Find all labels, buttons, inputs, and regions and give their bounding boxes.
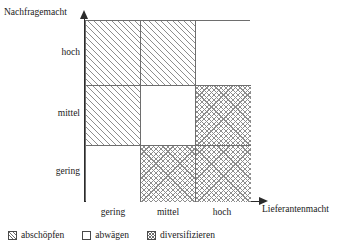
y-tick-label-gering: gering bbox=[30, 166, 80, 176]
matrix-cell-gering-hoch[interactable] bbox=[196, 146, 251, 202]
legend-swatch-cross-icon bbox=[147, 231, 156, 240]
x-axis-title: Lieferantenmacht bbox=[262, 204, 329, 214]
matrix-cell-mittel-gering[interactable] bbox=[86, 86, 141, 146]
chart-canvas: Nachfragemacht Lieferantenmacht hoch mit… bbox=[0, 0, 346, 251]
matrix-cell-hoch-mittel[interactable] bbox=[141, 21, 196, 86]
legend-item-abschoepfen[interactable]: abschöpfen bbox=[8, 230, 64, 240]
legend-item-abwaegen[interactable]: abwägen bbox=[82, 230, 129, 240]
y-tick-label-hoch: hoch bbox=[30, 47, 80, 57]
matrix-cell-hoch-hoch[interactable] bbox=[196, 21, 251, 86]
legend-label-abwaegen: abwägen bbox=[95, 230, 129, 240]
y-axis-title: Nachfragemacht bbox=[4, 7, 67, 17]
strategy-matrix bbox=[85, 20, 250, 201]
legend-label-diversifizieren: diversifizieren bbox=[160, 230, 215, 240]
matrix-cell-gering-mittel[interactable] bbox=[141, 146, 196, 202]
chart-legend: abschöpfen abwägen diversifizieren bbox=[8, 230, 233, 240]
matrix-cell-mittel-mittel[interactable] bbox=[141, 86, 196, 146]
matrix-cell-mittel-hoch[interactable] bbox=[196, 86, 251, 146]
legend-swatch-white-icon bbox=[82, 231, 91, 240]
legend-label-abschoepfen: abschöpfen bbox=[21, 230, 64, 240]
matrix-cell-gering-gering[interactable] bbox=[86, 146, 141, 202]
y-tick-label-mittel: mittel bbox=[30, 108, 80, 118]
x-tick-label-gering: gering bbox=[85, 207, 141, 217]
y-axis-arrow-icon bbox=[80, 10, 88, 19]
matrix-cell-hoch-gering[interactable] bbox=[86, 21, 141, 86]
legend-swatch-diagonal-icon bbox=[8, 231, 17, 240]
x-tick-label-mittel: mittel bbox=[140, 207, 196, 217]
legend-item-diversifizieren[interactable]: diversifizieren bbox=[147, 230, 215, 240]
x-axis-arrow-icon bbox=[259, 197, 268, 205]
x-tick-label-hoch: hoch bbox=[194, 207, 250, 217]
